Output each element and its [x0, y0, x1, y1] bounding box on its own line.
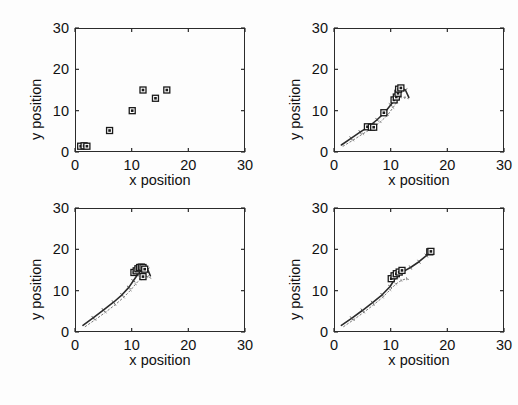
x-axis-label: x position: [334, 172, 504, 188]
y-tick-label: 10: [300, 103, 328, 118]
x-axis-label: x position: [75, 352, 245, 368]
axes-box: [75, 208, 245, 332]
x-tick-label: 30: [496, 338, 512, 353]
y-tick-label: 20: [300, 242, 328, 257]
x-tick-label: 20: [439, 338, 455, 353]
x-tick-label: 0: [71, 158, 79, 173]
y-tick-label: 30: [300, 201, 328, 216]
axes-box: [334, 28, 504, 152]
x-tick-label: 0: [330, 158, 338, 173]
x-tick-label: 20: [439, 158, 455, 173]
y-tick-label: 0: [41, 325, 69, 340]
x-tick-label: 0: [330, 338, 338, 353]
x-axis-label: x position: [334, 352, 504, 368]
y-tick-label: 10: [41, 283, 69, 298]
x-tick-label: 20: [180, 338, 196, 353]
x-tick-label: 30: [237, 338, 253, 353]
plot-panel-top-left: y position x position 01020300102030: [0, 0, 259, 202]
y-tick-label: 20: [300, 62, 328, 77]
y-tick-label: 0: [41, 145, 69, 160]
x-tick-label: 20: [180, 158, 196, 173]
x-tick-label: 30: [496, 158, 512, 173]
y-tick-label: 30: [41, 201, 69, 216]
y-tick-label: 10: [300, 283, 328, 298]
x-tick-label: 10: [124, 338, 140, 353]
x-tick-label: 10: [383, 158, 399, 173]
plot-panel-bottom-right: y position x position 01020300102030: [259, 195, 518, 397]
plot-panel-bottom-left: y position x position 01020300102030: [0, 195, 259, 397]
y-tick-label: 0: [300, 325, 328, 340]
x-tick-label: 10: [124, 158, 140, 173]
plot-panel-top-right: y position x position 01020300102030: [259, 0, 518, 202]
figure-container: y position x position 01020300102030 y p…: [0, 0, 518, 405]
y-tick-label: 20: [41, 62, 69, 77]
y-tick-label: 30: [41, 21, 69, 36]
x-tick-label: 30: [237, 158, 253, 173]
axes-box: [334, 208, 504, 332]
x-tick-label: 0: [71, 338, 79, 353]
y-tick-label: 0: [300, 145, 328, 160]
y-tick-label: 30: [300, 21, 328, 36]
y-tick-label: 20: [41, 242, 69, 257]
x-axis-label: x position: [75, 172, 245, 188]
y-tick-label: 10: [41, 103, 69, 118]
axes-box: [75, 28, 245, 152]
x-tick-label: 10: [383, 338, 399, 353]
